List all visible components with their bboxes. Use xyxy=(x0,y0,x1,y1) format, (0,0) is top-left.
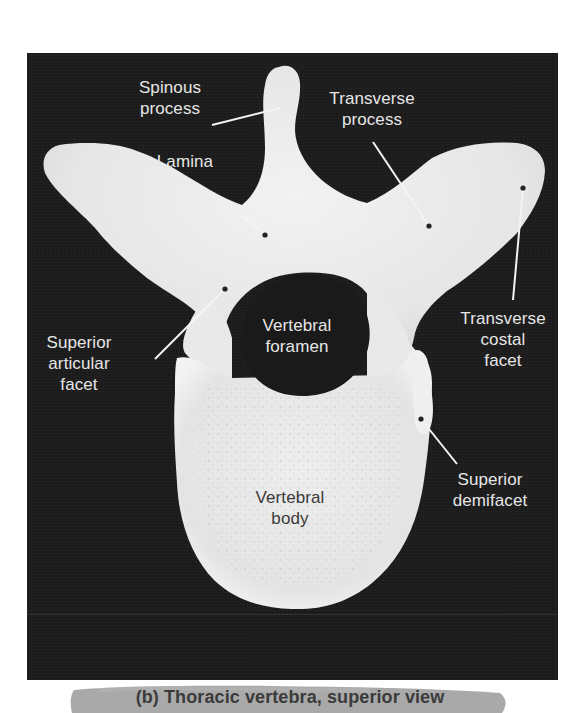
pointer-dot-transverse-process xyxy=(426,223,431,228)
figure-caption-banner: (b) Thoracic vertebra, superior view xyxy=(70,684,510,713)
label-superior-articular-facet: Superior articular facet xyxy=(29,332,129,395)
label-transverse-process: Transverse process xyxy=(317,88,427,130)
pointer-dot-superior-demifacet xyxy=(418,416,423,421)
label-vertebral-body: Vertebral body xyxy=(240,487,340,529)
pointer-dot-transverse-costal-facet xyxy=(520,185,525,190)
label-lamina: Lamina xyxy=(145,151,225,172)
pointer-dot-superior-articular-facet xyxy=(222,286,227,291)
pointer-dot-lamina xyxy=(262,232,267,237)
label-superior-demifacet: Superior demifacet xyxy=(440,469,540,511)
label-vertebral-foramen: Vertebral foramen xyxy=(247,315,347,357)
specimen-photo-panel: Spinous process Transverse process Lamin… xyxy=(27,53,558,680)
figure-caption: (b) Thoracic vertebra, superior view xyxy=(70,687,510,708)
scan-artifact-line xyxy=(27,614,558,615)
label-transverse-costal-facet: Transverse costal facet xyxy=(447,308,558,371)
label-spinous-process: Spinous process xyxy=(115,77,225,119)
